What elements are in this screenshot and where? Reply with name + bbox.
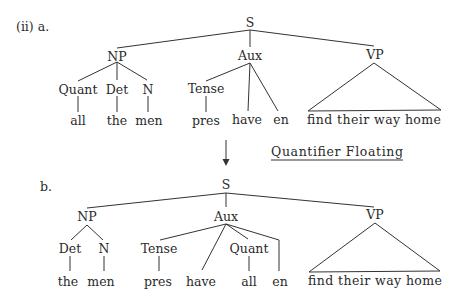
example-label: (ii) a.: [16, 19, 49, 34]
edge-np-n: [117, 62, 147, 80]
edge-aux-tense: [206, 63, 250, 81]
syntax-tree-diagram: (ii) a. S NP Aux VP Quant Det N Tense al…: [0, 0, 463, 299]
node-np: NP: [107, 49, 126, 64]
leaf-the: the: [107, 113, 127, 128]
node-n: N: [99, 241, 110, 256]
node-s: S: [246, 15, 255, 30]
node-det: Det: [59, 241, 81, 256]
vp-triangle: [309, 223, 440, 272]
leaf-en: en: [273, 112, 288, 127]
node-det: Det: [106, 82, 128, 97]
edge-aux-have: [202, 224, 226, 270]
node-vp: VP: [365, 207, 383, 222]
leaf-en: en: [272, 274, 287, 289]
edge-np-n: [87, 225, 103, 240]
node-vp: VP: [365, 47, 383, 62]
edge-aux-en-a: [226, 224, 279, 240]
edge-np-det: [71, 225, 87, 240]
edge-s-np: [87, 193, 226, 208]
leaf-the: the: [58, 274, 78, 289]
edge-s-vp: [250, 30, 374, 46]
edge-s-vp: [226, 193, 374, 207]
node-quant: Quant: [230, 241, 269, 256]
leaf-pres: pres: [192, 113, 220, 128]
transformation-name: Quantifier Floating: [271, 144, 403, 159]
leaf-men: men: [135, 113, 162, 128]
tree-b: b. S NP Aux VP Det N Tense Quant the men…: [40, 177, 442, 289]
node-tense: Tense: [141, 241, 178, 256]
leaf-vp-phrase: find their way home: [308, 273, 442, 288]
down-arrow-icon: [223, 140, 230, 166]
node-n: N: [143, 82, 154, 97]
edge-s-np: [117, 30, 250, 48]
leaf-have: have: [186, 274, 216, 289]
node-tense: Tense: [188, 81, 225, 96]
leaf-all: all: [70, 113, 85, 128]
node-s: S: [222, 177, 231, 192]
node-np: NP: [77, 209, 96, 224]
node-aux: Aux: [213, 209, 238, 224]
node-aux: Aux: [237, 48, 262, 63]
vp-triangle: [308, 63, 441, 111]
tree-a: S NP Aux VP Quant Det N Tense all the me…: [59, 15, 441, 128]
edge-np-quant: [78, 62, 117, 81]
leaf-all: all: [241, 274, 256, 289]
leaf-have: have: [232, 112, 262, 127]
tree-b-label: b.: [40, 179, 52, 194]
leaf-men: men: [87, 274, 114, 289]
leaf-pres: pres: [144, 274, 172, 289]
edge-aux-en: [250, 63, 278, 111]
edge-aux-have: [248, 63, 250, 111]
edge-aux-quant: [226, 224, 248, 239]
transformation: Quantifier Floating: [223, 140, 404, 166]
leaf-vp-phrase: find their way home: [307, 112, 441, 127]
edge-aux-tense: [160, 224, 226, 240]
node-quant: Quant: [59, 82, 98, 97]
